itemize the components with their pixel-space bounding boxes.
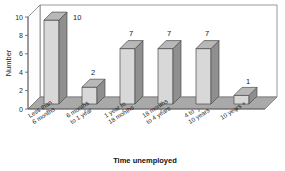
bar-chart: 0 2 4 6 8 10 Number bbox=[0, 0, 285, 171]
y-axis: 0 2 4 6 8 10 bbox=[15, 14, 28, 113]
chart-svg: 0 2 4 6 8 10 Number bbox=[0, 0, 285, 171]
y-tick-2: 2 bbox=[19, 87, 28, 94]
y-tick-label: 2 bbox=[19, 87, 23, 94]
y-axis-title: Number bbox=[4, 49, 13, 76]
bar-value-label: 7 bbox=[129, 29, 133, 38]
left-wall bbox=[28, 5, 40, 109]
bar-front-face bbox=[120, 49, 135, 104]
y-tick-label: 10 bbox=[15, 14, 23, 21]
bar-value-label: 7 bbox=[167, 29, 171, 38]
bar-side-face bbox=[173, 41, 181, 104]
bar-front-face bbox=[196, 49, 211, 104]
bar-value-label: 10 bbox=[73, 13, 81, 22]
y-tick-0: 0 bbox=[19, 106, 28, 113]
bar-side-face bbox=[135, 41, 143, 104]
y-tick-4: 4 bbox=[19, 69, 28, 76]
y-tick-8: 8 bbox=[19, 32, 28, 39]
bar-value-label: 7 bbox=[205, 29, 209, 38]
bar-value-label: 2 bbox=[91, 68, 95, 77]
x-axis-title: Time unemployed bbox=[113, 156, 177, 165]
y-tick-label: 8 bbox=[19, 32, 23, 39]
y-tick-label: 6 bbox=[19, 50, 23, 57]
bar-front-face bbox=[158, 49, 173, 104]
y-tick-10: 10 bbox=[15, 14, 28, 21]
y-tick-6: 6 bbox=[19, 50, 28, 57]
bar-side-face bbox=[211, 41, 219, 104]
bar-front-face bbox=[44, 20, 59, 104]
bar-side-face bbox=[59, 12, 67, 104]
bar-value-label: 1 bbox=[246, 77, 250, 86]
y-tick-label: 0 bbox=[19, 106, 23, 113]
y-tick-label: 4 bbox=[19, 69, 23, 76]
